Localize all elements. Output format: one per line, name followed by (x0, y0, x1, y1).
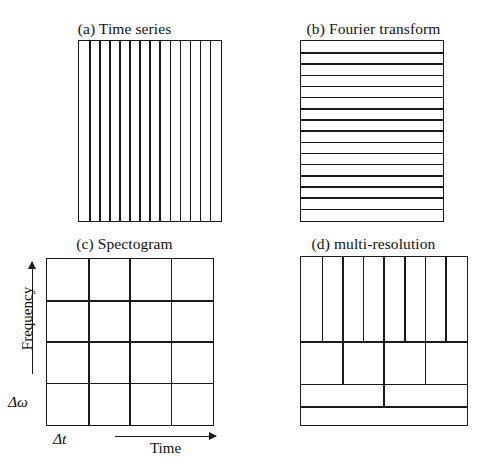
panel-d-row1-vline-7 (445, 257, 447, 341)
panel-a-grid-vline-3 (109, 41, 111, 221)
panel-d-row2-vline-1 (342, 341, 344, 384)
panel-d-row-separator-3 (301, 406, 467, 408)
panel-c-plot-box (46, 258, 214, 426)
panel-d-row1-vline-3 (363, 257, 365, 341)
panel-a-grid-vline-11 (190, 41, 192, 221)
panel-b-fourier-transform: (b) Fourier transform (249, 0, 498, 236)
panel-b-grid-hline-5 (301, 97, 443, 99)
panel-d-multi-resolution: (d) multi-resolution (249, 230, 498, 472)
panel-b-grid-hline-9 (301, 142, 443, 144)
panel-b-grid-hline-6 (301, 108, 443, 110)
panel-b-grid-hline-11 (301, 164, 443, 166)
panel-a-grid-vline-13 (210, 41, 212, 221)
panel-d-row1-vline-2 (342, 257, 344, 341)
panel-a-grid-vline-1 (89, 41, 91, 221)
panel-d-row3-vline-1 (383, 384, 385, 407)
panel-b-grid-hline-12 (301, 175, 443, 177)
panel-b-grid-hline-1 (301, 52, 443, 54)
panel-c-title: (c) Spectogram (0, 235, 249, 252)
panel-a-plot-box (78, 40, 222, 222)
panel-b-grid-hline-4 (301, 86, 443, 88)
frequency-axis-label: Frequency (19, 276, 36, 362)
panel-a-grid-vline-12 (200, 41, 202, 221)
panel-d-row2-vline-2 (383, 341, 385, 384)
panel-b-grid-hline-10 (301, 153, 443, 155)
panel-a-grid-vline-5 (129, 41, 131, 221)
panel-b-grid-hline-2 (301, 63, 443, 65)
panel-c-grid-hline-1 (47, 300, 213, 302)
panel-b-title: (b) Fourier transform (249, 20, 498, 37)
panel-d-row1-vline-5 (404, 257, 406, 341)
panel-a-title: (a) Time series (0, 20, 249, 37)
delta-t-label: Δt (53, 430, 66, 448)
panel-d-row1-vline-4 (383, 257, 385, 341)
panel-b-grid-hline-7 (301, 119, 443, 121)
delta-omega-label: Δω (8, 393, 28, 411)
time-axis-label: Time (115, 440, 216, 457)
panel-a-grid-vline-6 (139, 41, 141, 221)
figure-canvas: (a) Time series (b) Fourier transform (c… (0, 0, 498, 472)
panel-b-grid-hline-3 (301, 75, 443, 77)
panel-d-title: (d) multi-resolution (249, 235, 498, 252)
panel-a-grid-vline-9 (170, 41, 172, 221)
panel-b-grid-hline-8 (301, 130, 443, 132)
panel-b-plot-box (300, 40, 444, 222)
panel-d-plot-box (300, 256, 468, 426)
panel-d-row1-vline-1 (322, 257, 324, 341)
panel-b-grid-hline-14 (301, 197, 443, 199)
panel-b-grid-hline-15 (301, 209, 443, 211)
panel-a-grid-vline-10 (180, 41, 182, 221)
panel-a-time-series: (a) Time series (0, 0, 249, 236)
panel-a-grid-vline-8 (159, 41, 161, 221)
panel-c-spectogram: (c) Spectogram Frequency Δω Time Δt (0, 230, 249, 472)
time-axis-arrow (115, 436, 216, 437)
panel-a-grid-vline-4 (119, 41, 121, 221)
panel-c-grid-hline-2 (47, 341, 213, 343)
panel-d-row2-vline-3 (425, 341, 427, 384)
panel-d-row1-vline-6 (425, 257, 427, 341)
panel-a-grid-vline-7 (149, 41, 151, 221)
panel-b-grid-hline-13 (301, 186, 443, 188)
panel-c-grid-hline-3 (47, 383, 213, 385)
panel-a-grid-vline-2 (99, 41, 101, 221)
